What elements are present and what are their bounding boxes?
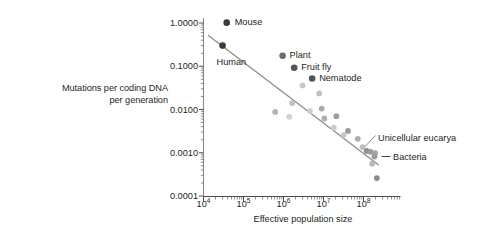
annotation-bacteria: Bacteria	[393, 152, 427, 162]
plot-area	[0, 0, 486, 248]
annotation-unicellular-eucarya: Unicellular eucarya	[378, 133, 456, 143]
mutation-rate-scatter-figure: Mutations per coding DNA per generation …	[0, 0, 486, 248]
point-label-nematode: Nematode	[319, 73, 361, 83]
point-label-mouse: Mouse	[235, 17, 263, 27]
point-label-human: Human	[217, 57, 247, 67]
point-label-fruit-fly: Fruit fly	[301, 62, 331, 72]
point-label-plant: Plant	[290, 50, 311, 60]
